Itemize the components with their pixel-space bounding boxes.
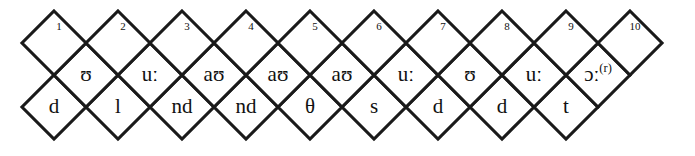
vowel-cell-2: uː — [142, 62, 158, 86]
consonant-cell-3: nd — [172, 94, 194, 118]
index-cell-3: 3 — [184, 20, 190, 32]
vowel-cell-5: aʊ — [332, 62, 353, 86]
lattice-svg: dlndndθsddt ʊuːaʊaʊaʊuːʊuːɔː(r) 12345678… — [0, 0, 695, 156]
vowel-cell-1: ʊ — [80, 62, 92, 86]
index-cell-2: 2 — [120, 20, 126, 32]
index-cell-8: 8 — [504, 20, 510, 32]
phoneme-lattice-diagram: dlndndθsddt ʊuːaʊaʊaʊuːʊuːɔː(r) 12345678… — [0, 0, 695, 156]
index-cell-5: 5 — [312, 20, 318, 32]
index-cell-7: 7 — [440, 20, 446, 32]
index-cell-6: 6 — [376, 20, 382, 32]
index-cell-10: 10 — [630, 20, 642, 32]
consonant-cell-7: d — [433, 94, 444, 118]
consonant-cell-5: θ — [305, 94, 315, 118]
consonant-cell-4: nd — [236, 94, 258, 118]
index-cell-4: 4 — [248, 20, 254, 32]
vowel-cell-6: uː — [398, 62, 414, 86]
consonant-cell-2: l — [115, 94, 121, 118]
consonant-cell-1: d — [49, 94, 60, 118]
consonant-cell-6: s — [370, 94, 378, 118]
index-cell-9: 9 — [568, 20, 574, 32]
index-cell-1: 1 — [56, 20, 62, 32]
vowel-cell-4: aʊ — [268, 62, 289, 86]
consonant-cell-9: t — [563, 94, 569, 118]
vowel-cell-7: ʊ — [464, 62, 476, 86]
vowel-cell-8: uː — [526, 62, 542, 86]
consonant-cell-8: d — [497, 94, 508, 118]
vowel-cell-3: aʊ — [204, 62, 225, 86]
